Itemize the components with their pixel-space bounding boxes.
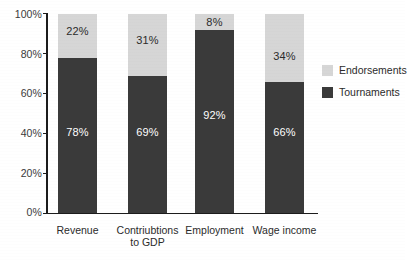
bar-segment-tournaments: [128, 76, 167, 213]
x-axis-line: [46, 213, 318, 214]
y-axis-tick-label-60: 60%: [0, 88, 42, 99]
bar-value-label-endorsements: 34%: [265, 51, 304, 62]
chart-legend: Endorsements Tournaments: [322, 59, 407, 103]
bar-segment-tournaments: [265, 82, 304, 213]
legend-item-tournaments: Tournaments: [322, 81, 407, 103]
y-axis-tick-label-100: 100%: [0, 9, 42, 20]
bar-value-label-endorsements: 22%: [58, 26, 97, 37]
legend-item-endorsements: Endorsements: [322, 59, 407, 81]
y-axis-tick-label-80: 80%: [0, 49, 42, 60]
bar-segment-tournaments: [195, 30, 234, 213]
bar-revenue: 22% 78%: [58, 14, 97, 213]
bar-value-label-tournaments: 92%: [195, 110, 234, 121]
bar-value-label-endorsements: 31%: [128, 35, 167, 46]
bar-value-label-tournaments: 78%: [58, 127, 97, 138]
bar-value-label-tournaments: 69%: [128, 127, 167, 138]
y-axis-tick-mark: [43, 173, 47, 174]
y-axis-tick-mark: [43, 13, 47, 14]
bar-contriubtions-to-gdp: 31% 69%: [128, 14, 167, 213]
y-axis-tick-mark: [43, 133, 47, 134]
y-axis-tick-mark: [43, 213, 47, 214]
x-axis-category-label-wage-income: Wage income: [237, 224, 333, 236]
bar-segment-endorsements: [265, 14, 304, 82]
legend-swatch-endorsements-icon: [322, 65, 333, 76]
x-axis-category-label-line2: to GDP: [100, 236, 196, 248]
y-axis-line: [46, 13, 48, 214]
y-axis-tick-label-40: 40%: [0, 128, 42, 139]
legend-label-endorsements: Endorsements: [339, 65, 407, 76]
bar-wage-income: 34% 66%: [265, 14, 304, 213]
bar-value-label-tournaments: 66%: [265, 127, 304, 138]
bar-employment: 8% 92%: [195, 14, 234, 213]
y-axis-tick-mark: [43, 53, 47, 54]
y-axis-tick-label-0: 0%: [0, 207, 42, 218]
y-axis-tick-mark: [43, 93, 47, 94]
x-axis-category-label-line1: Wage income: [237, 224, 333, 236]
y-axis-tick-label-20: 20%: [0, 168, 42, 179]
bar-value-label-endorsements: 8%: [195, 17, 234, 28]
legend-label-tournaments: Tournaments: [339, 87, 400, 98]
legend-swatch-tournaments-icon: [322, 87, 333, 98]
